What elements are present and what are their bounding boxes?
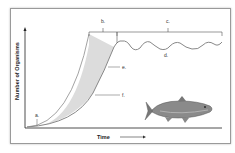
label-a: a.: [35, 112, 39, 118]
label-f: f.: [122, 92, 125, 98]
label-d: d.: [164, 52, 168, 58]
carrying-capacity-oscillation: [122, 41, 222, 50]
shaded-gap-region: [40, 34, 114, 126]
fish-icon: [145, 96, 212, 123]
bracket-c: [117, 32, 222, 36]
x-axis-label: Time: [97, 134, 110, 140]
time-arrow-head-icon: [143, 136, 146, 139]
growth-curve-diagram: [0, 0, 235, 153]
label-e: e.: [122, 64, 126, 70]
y-axis-arrow-icon: [24, 27, 27, 31]
label-c: c.: [166, 18, 170, 24]
y-axis-label: Number of Organisms: [14, 40, 20, 102]
bracket-b: [89, 32, 117, 36]
label-b: b.: [101, 18, 105, 24]
